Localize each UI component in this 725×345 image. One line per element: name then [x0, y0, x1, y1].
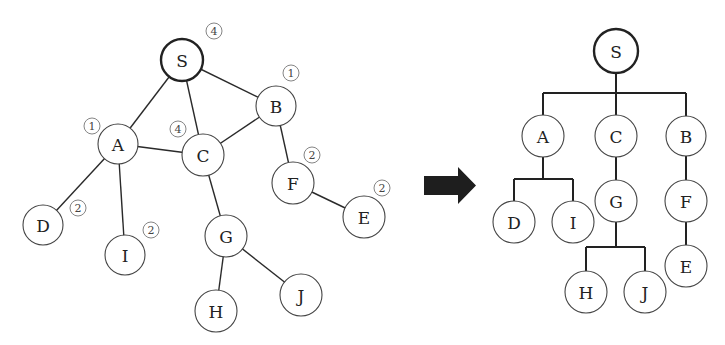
node-label: F	[680, 192, 692, 212]
badge-value: 4	[175, 123, 182, 136]
graph-to-tree-diagram: S4A1B1C4D2I2F2E2GHJ SACBDIGFEHJ	[0, 0, 725, 345]
graph-nodes: S4A1B1C4D2I2F2E2GHJ	[23, 23, 390, 332]
graph-badge-I: 2	[143, 222, 159, 238]
node-label: H	[579, 283, 594, 303]
graph-node-I: I2	[105, 222, 159, 275]
right-arrow-icon	[424, 167, 476, 204]
badge-value: 2	[148, 224, 155, 237]
graph-node-D: D2	[23, 200, 86, 245]
badge-value: 2	[75, 202, 82, 215]
graph-badge-A: 1	[84, 118, 100, 134]
graph-badge-B: 1	[283, 65, 299, 81]
node-label: A	[111, 135, 125, 155]
badge-value: 2	[379, 182, 386, 195]
graph-badge-E: 2	[374, 180, 390, 196]
node-label: G	[219, 227, 233, 247]
graph-node-B: B1	[256, 65, 299, 126]
badge-value: 1	[288, 67, 295, 80]
node-label: S	[176, 51, 188, 71]
tree-node-B: B	[666, 116, 706, 156]
graph-node-F: F2	[272, 147, 320, 204]
tree-node-I: I	[552, 201, 594, 243]
node-label: I	[122, 246, 129, 266]
node-label: F	[287, 174, 299, 194]
tree-node-S: S	[594, 29, 638, 73]
node-label: E	[680, 257, 692, 277]
node-label: B	[270, 97, 283, 117]
node-label: J	[296, 286, 305, 306]
tree-node-G: G	[595, 180, 637, 222]
badge-value: 4	[211, 25, 218, 38]
tree-node-H: H	[565, 271, 607, 313]
node-label: H	[209, 302, 224, 322]
node-label: E	[358, 208, 370, 228]
node-label: A	[536, 127, 550, 147]
tree-edges	[514, 51, 686, 292]
node-label: G	[609, 192, 623, 212]
badge-value: 2	[309, 149, 316, 162]
tree-nodes: SACBDIGFEHJ	[493, 29, 707, 313]
graph-badge-S: 4	[206, 23, 222, 39]
transform-arrow	[424, 167, 476, 204]
node-label: C	[196, 146, 209, 166]
node-label: D	[36, 216, 50, 236]
graph-badge-D: 2	[70, 200, 86, 216]
graph-node-A: A1	[84, 118, 138, 164]
node-label: J	[640, 283, 649, 303]
graph-node-S: S4	[161, 23, 222, 81]
graph-badge-C: 4	[170, 121, 186, 137]
graph-edges	[43, 60, 364, 311]
graph-badge-F: 2	[304, 147, 320, 163]
badge-value: 1	[89, 120, 96, 133]
tree-node-J: J	[624, 271, 666, 313]
tree-node-D: D	[493, 201, 535, 243]
tree-node-E: E	[665, 245, 707, 287]
node-label: B	[680, 127, 693, 147]
tree-node-A: A	[522, 115, 564, 157]
node-label: D	[507, 213, 521, 233]
node-label: C	[609, 127, 622, 147]
graph-node-J: J	[280, 274, 322, 316]
graph-node-H: H	[195, 290, 237, 332]
node-label: S	[610, 42, 622, 62]
graph-node-G: G	[205, 215, 247, 257]
tree-node-F: F	[665, 180, 707, 222]
graph-node-E: E2	[343, 180, 390, 238]
node-label: I	[570, 213, 577, 233]
tree-node-C: C	[595, 115, 637, 157]
